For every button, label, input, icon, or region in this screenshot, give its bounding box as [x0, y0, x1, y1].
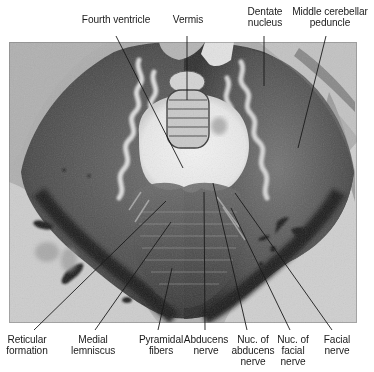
- label-abducens-nerve: Abducens nerve: [183, 334, 229, 356]
- label-dentate-nucleus: Dentate nucleus: [239, 6, 292, 28]
- pons-section-photo: [9, 42, 357, 323]
- label-fourth-ventricle: Fourth ventricle: [65, 14, 167, 25]
- label-nuc-of-facial-nerve: Nuc. of facial nerve: [273, 334, 313, 367]
- label-pyramidal-fibers: Pyramidal fibers: [135, 334, 186, 356]
- label-nuc-of-abducens-nerve: Nuc. of abducens nerve: [229, 334, 277, 367]
- label-facial-nerve: Facial nerve: [319, 334, 356, 356]
- label-middle-cerebellar-peduncle: Middle cerebellar peduncle: [291, 6, 368, 28]
- label-vermis: Vermis: [162, 14, 215, 25]
- anatomy-figure: Fourth ventricle Vermis Dentate nucleus …: [0, 0, 374, 372]
- label-medial-lemniscus: Medial lemniscus: [71, 334, 115, 356]
- label-reticular-formation: Reticular formation: [5, 334, 49, 356]
